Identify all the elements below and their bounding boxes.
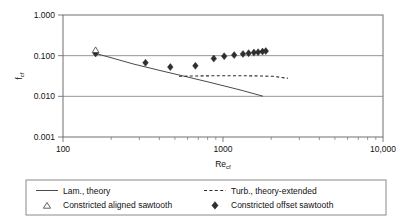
x-axis-title-base: Re: [215, 159, 226, 169]
legend-label-lam-theory: Lam., theory: [63, 186, 111, 196]
y-ticklabel-0.010: 0.010: [34, 91, 56, 101]
y-ticklabel-0.001: 0.001: [34, 132, 56, 142]
legend-label-turb-theory-extended: Turb., theory-extended: [231, 186, 317, 196]
chart-background: [0, 0, 413, 220]
legend-label-constricted-offset-sawtooth: Constricted offset sawtooth: [231, 200, 334, 210]
x-ticklabel-10000: 10,000: [370, 144, 396, 154]
x-ticklabel-100: 100: [56, 144, 70, 154]
y-ticklabel-1.000: 1.000: [34, 10, 56, 20]
x-ticklabel-1000: 1000: [214, 144, 233, 154]
friction-factor-chart: 1.000 0.100 0.010 0.001 fcf 100 10: [0, 0, 413, 220]
legend-label-constricted-aligned-sawtooth: Constricted aligned sawtooth: [63, 200, 172, 210]
y-axis-title-sub: cf: [19, 72, 25, 77]
legend-item-constricted-offset-sawtooth: Constricted offset sawtooth: [212, 200, 334, 210]
legend-item-constricted-aligned-sawtooth: Constricted aligned sawtooth: [43, 200, 172, 210]
y-ticklabel-0.100: 0.100: [34, 51, 56, 61]
x-axis-title-sub: cf: [226, 164, 231, 170]
